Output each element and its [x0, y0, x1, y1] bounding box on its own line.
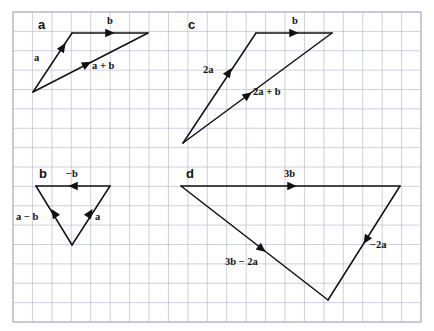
canvas-background	[0, 0, 434, 331]
vector-label-b-minus-b: −b	[66, 168, 78, 179]
vector-label-b-a-minus-b: a − b	[16, 211, 38, 222]
diagram-canvas: aaba + bb−baa − bc2ab2a + bd3b−2a3b − 2a	[0, 0, 434, 331]
vector-label-b-a: a	[95, 211, 101, 222]
vector-label-a-a-plus-b: a + b	[92, 60, 114, 71]
vector-label-c-b: b	[292, 15, 298, 26]
panel-label-a: a	[38, 17, 46, 32]
vector-label-a-b: b	[107, 15, 113, 26]
vector-label-d-3b: 3b	[284, 168, 295, 179]
vector-label-c-2a: 2a	[203, 64, 214, 75]
panel-label-c: c	[188, 17, 195, 32]
panel-label-b: b	[39, 166, 47, 181]
vector-label-d-minus-2a: −2a	[370, 239, 387, 250]
vector-label-d-3b-minus-2a: 3b − 2a	[225, 256, 259, 267]
vector-label-a-a: a	[34, 52, 40, 63]
vector-diagram-figure: aaba + bb−baa − bc2ab2a + bd3b−2a3b − 2a	[0, 0, 434, 331]
vector-label-c-2a-plus-b: 2a + b	[253, 86, 281, 97]
panel-label-d: d	[186, 166, 194, 181]
